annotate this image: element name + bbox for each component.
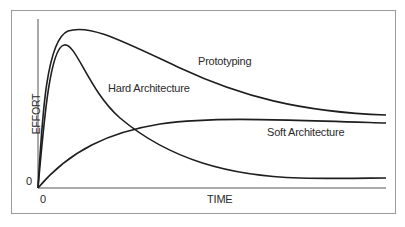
x-axis-label: TIME [207, 193, 232, 205]
prototyping-curve [38, 29, 386, 188]
y-zero-tick: 0 [26, 175, 32, 187]
chart-plot [0, 0, 405, 227]
hard-architecture-label: Hard Architecture [108, 82, 190, 94]
x-zero-tick: 0 [40, 193, 46, 205]
soft-architecture-label: Soft Architecture [267, 126, 344, 138]
prototyping-label: Prototyping [198, 55, 251, 67]
y-axis-label: EFFORT [30, 94, 42, 135]
